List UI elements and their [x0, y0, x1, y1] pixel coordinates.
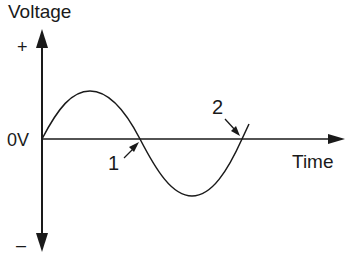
down-arrow-icon — [36, 233, 48, 252]
positive-sign: + — [17, 38, 28, 56]
up-arrow-icon — [36, 29, 48, 48]
right-arrow-icon — [328, 134, 345, 144]
y-axis-label: Voltage — [8, 2, 71, 21]
marker-1-label: 1 — [108, 153, 119, 173]
zero-volt-label: 0V — [7, 131, 29, 149]
marker-1-arrowhead-icon — [129, 142, 139, 152]
sine-wave-diagram — [0, 0, 351, 255]
marker-2-label: 2 — [212, 97, 223, 117]
negative-sign: – — [16, 236, 26, 254]
time-axis — [42, 134, 345, 144]
voltage-axis — [36, 29, 48, 252]
x-axis-label: Time — [292, 152, 334, 171]
